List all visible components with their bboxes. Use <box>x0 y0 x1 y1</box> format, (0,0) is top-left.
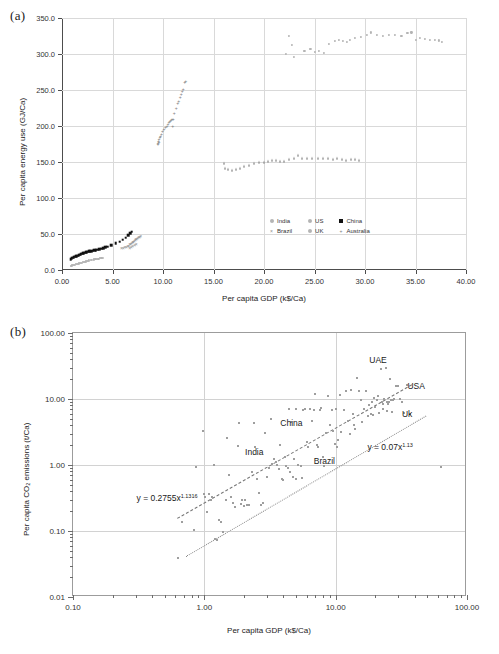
data-point <box>279 444 281 446</box>
legend-label: China <box>346 218 362 224</box>
data-point-uk <box>354 158 356 161</box>
data-point-uk <box>283 159 285 162</box>
data-point <box>382 403 384 405</box>
data-point <box>278 468 280 470</box>
x-tick <box>192 595 193 598</box>
y-tick <box>70 353 73 354</box>
data-point-australia: + <box>174 107 177 110</box>
data-point-uk <box>341 158 343 161</box>
data-point-uk <box>336 157 338 160</box>
data-point <box>301 477 303 479</box>
x-tick <box>152 595 153 598</box>
data-point <box>220 521 222 523</box>
legend-entry-brazil: ×Brazil <box>270 228 292 234</box>
y-tick <box>58 126 62 127</box>
data-point-uk <box>235 168 237 171</box>
data-point-uk <box>297 153 299 156</box>
x-tick-label: 0.00 <box>55 277 70 286</box>
y-tick <box>70 491 73 492</box>
data-point <box>213 464 215 466</box>
data-point <box>380 368 382 370</box>
data-point <box>306 441 308 443</box>
data-point-uk <box>224 166 226 169</box>
data-point-us <box>309 48 311 50</box>
x-tick-label: 15.00 <box>204 277 223 286</box>
data-point <box>383 398 385 400</box>
data-point <box>300 465 302 467</box>
data-point-india <box>102 257 104 259</box>
y-tick <box>70 339 73 340</box>
data-point-us <box>303 50 305 52</box>
data-point <box>251 471 253 473</box>
y-tick <box>70 419 73 420</box>
data-point-us <box>338 39 340 41</box>
data-point <box>241 499 243 501</box>
data-point-china <box>110 244 113 247</box>
y-tick-label: 0.01 <box>49 593 65 602</box>
data-point <box>260 504 262 506</box>
data-point-uk <box>271 159 273 162</box>
data-point <box>195 466 197 468</box>
x-tick <box>165 595 166 598</box>
y-tick <box>70 468 73 469</box>
data-point-uk <box>350 157 352 160</box>
data-point-uk <box>253 162 255 165</box>
data-point-us <box>418 37 420 39</box>
y-tick <box>70 414 73 415</box>
data-point <box>325 432 327 434</box>
y-tick <box>70 359 73 360</box>
y-axis-title-a: Per capita energy use (GJ/Ca) <box>18 98 27 206</box>
y-tick <box>70 541 73 542</box>
panel-b-label: (b) <box>10 324 26 340</box>
data-point <box>382 408 384 410</box>
data-point-uk <box>239 166 241 169</box>
data-point-uk <box>301 156 303 159</box>
data-point <box>339 394 341 396</box>
data-point <box>211 496 213 498</box>
data-point-us <box>406 32 408 34</box>
data-point-australia: + <box>177 100 180 103</box>
data-point-uk <box>258 161 260 164</box>
y-tick <box>70 379 73 380</box>
data-point <box>271 463 273 465</box>
data-point-us <box>376 33 378 35</box>
country-label-brazil: Brazil <box>314 456 335 466</box>
x-tick <box>454 595 455 598</box>
data-point <box>293 458 295 460</box>
data-point-uk <box>267 159 269 162</box>
x-tick <box>296 595 297 598</box>
data-point <box>373 397 375 399</box>
data-point <box>226 437 228 439</box>
x-tick <box>113 270 114 274</box>
y-tick <box>58 90 62 91</box>
x-tick <box>323 595 324 598</box>
equation-exponent: 1.1316 <box>181 492 198 498</box>
y-tick <box>70 546 73 547</box>
data-point <box>314 393 316 395</box>
y-tick <box>70 534 73 535</box>
y-tick <box>70 434 73 435</box>
data-point <box>368 404 370 406</box>
legend-swatch-australia: + <box>339 229 343 233</box>
x-tick <box>336 595 337 600</box>
data-point-australia: + <box>171 125 174 128</box>
data-point-uk <box>223 162 225 165</box>
y-tick <box>70 537 73 538</box>
data-point <box>206 511 208 513</box>
legend-swatch-us <box>308 219 312 223</box>
y-tick <box>70 485 73 486</box>
data-point <box>289 471 291 473</box>
x-axis-title-a: Per capita GDP (k$/Ca) <box>222 294 306 303</box>
data-point-us <box>342 40 344 42</box>
data-point-us <box>434 39 436 41</box>
data-point-uk <box>317 157 319 160</box>
data-point-uk <box>279 160 281 163</box>
panel-a-label: (a) <box>10 8 25 24</box>
legend-entry-australia: +Australia <box>339 228 369 234</box>
data-point-brazil: × <box>135 243 138 246</box>
y-tick <box>58 18 62 19</box>
y-tick <box>70 348 73 349</box>
data-point <box>208 493 210 495</box>
y-tick <box>70 566 73 567</box>
data-point <box>332 430 334 432</box>
